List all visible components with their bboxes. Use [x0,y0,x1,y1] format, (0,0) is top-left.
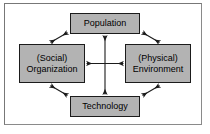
node-physical-environment-label: (Physical) Environment [131,53,186,74]
connector-population-social-organization [51,33,68,43]
connector-population-physical-environment [143,33,160,43]
connector-social-organization-technology [51,86,68,96]
node-physical-environment: (Physical) Environment [125,44,191,83]
node-social-organization: (Social) Organization [19,44,85,83]
node-social-organization-label: (Social) Organization [24,53,79,74]
connector-physical-environment-technology [143,86,160,96]
node-technology: Technology [70,96,140,117]
node-population-label: Population [82,18,129,29]
node-population: Population [70,13,140,34]
diagram-canvas: Population (Social) Organization (Physic… [0,0,210,134]
node-technology-label: Technology [80,101,130,112]
